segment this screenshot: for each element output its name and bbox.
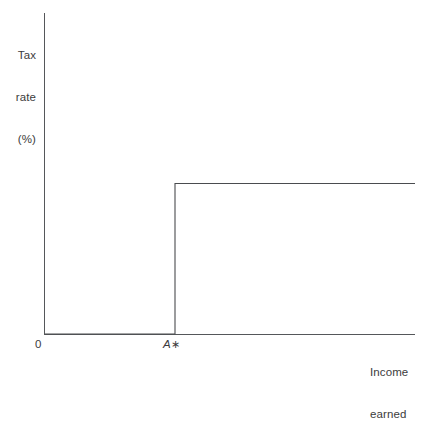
y-axis-label-line-1: Tax xyxy=(0,48,36,62)
threshold-letter: A xyxy=(163,338,171,350)
x-axis-label-line-1: Income xyxy=(370,365,425,379)
x-axis-label-line-2: earned xyxy=(370,407,425,421)
y-axis-label-line-2: rate xyxy=(0,90,36,104)
tax-rate-step-curve xyxy=(45,184,415,335)
y-axis-label-line-3: (%) xyxy=(0,132,36,146)
origin-tick-label: 0 xyxy=(35,337,49,351)
x-axis-label: Income earned xyxy=(370,337,425,422)
y-axis-label: Tax rate (%) xyxy=(0,20,36,174)
threshold-tick-label: A∗ xyxy=(163,337,193,351)
threshold-asterisk: ∗ xyxy=(171,338,180,350)
